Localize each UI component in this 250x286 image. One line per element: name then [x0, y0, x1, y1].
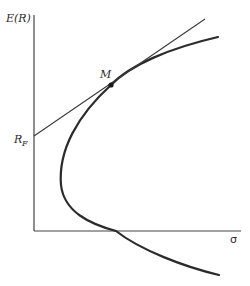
market-portfolio-point: [108, 82, 113, 87]
efficient-frontier-curve: [61, 37, 219, 275]
y-axis-label: E(R): [5, 12, 31, 25]
risk-free-subscript: F: [21, 139, 28, 148]
tangency-label: M: [99, 68, 112, 81]
x-axis-label: σ: [230, 233, 237, 246]
diagram-canvas: E(R) M R F σ: [0, 0, 250, 286]
capital-market-line: [34, 19, 205, 136]
risk-free-label: R: [13, 133, 22, 146]
